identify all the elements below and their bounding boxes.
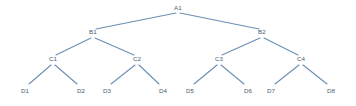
tree-edge-b1-c2 — [95, 38, 134, 55]
tree-node-d7: D7 — [267, 87, 275, 94]
tree-edge-b2-c3 — [222, 38, 260, 55]
tree-node-c1: C1 — [49, 55, 57, 62]
tree-node-b2: B2 — [258, 28, 266, 35]
tree-node-d6: D6 — [244, 87, 252, 94]
tree-node-c2: C2 — [133, 55, 141, 62]
tree-edge-c2-d4 — [139, 65, 159, 84]
tree-node-d3: D3 — [103, 87, 111, 94]
tree-edge-c2-d3 — [111, 65, 135, 84]
tree-edge-a1-b1 — [96, 13, 176, 29]
tree-edge-c3-d5 — [194, 65, 217, 84]
tree-diagram: A1B1B2C1C2C3C4D1D2D3D4D5D6D7D8 — [0, 0, 356, 106]
tree-edge-c4-d7 — [275, 65, 299, 84]
tree-edge-b2-c4 — [264, 38, 298, 55]
tree-edge-c1-d2 — [55, 65, 77, 84]
tree-node-d4: D4 — [159, 87, 167, 94]
tree-node-d5: D5 — [186, 87, 194, 94]
tree-edge-b1-c1 — [56, 38, 91, 55]
tree-edge-c1-d1 — [29, 65, 51, 84]
tree-node-c3: C3 — [215, 55, 223, 62]
tree-node-c4: C4 — [297, 55, 305, 62]
tree-edge-a1-b2 — [180, 13, 259, 29]
tree-edges-layer — [0, 0, 356, 106]
tree-edge-c3-d6 — [221, 65, 244, 84]
edges-group — [29, 13, 327, 84]
tree-node-a1: A1 — [174, 4, 182, 11]
tree-edge-c4-d8 — [303, 65, 327, 84]
tree-node-d2: D2 — [77, 87, 85, 94]
tree-node-b1: B1 — [89, 28, 97, 35]
tree-node-d1: D1 — [21, 87, 29, 94]
tree-node-d8: D8 — [327, 87, 335, 94]
